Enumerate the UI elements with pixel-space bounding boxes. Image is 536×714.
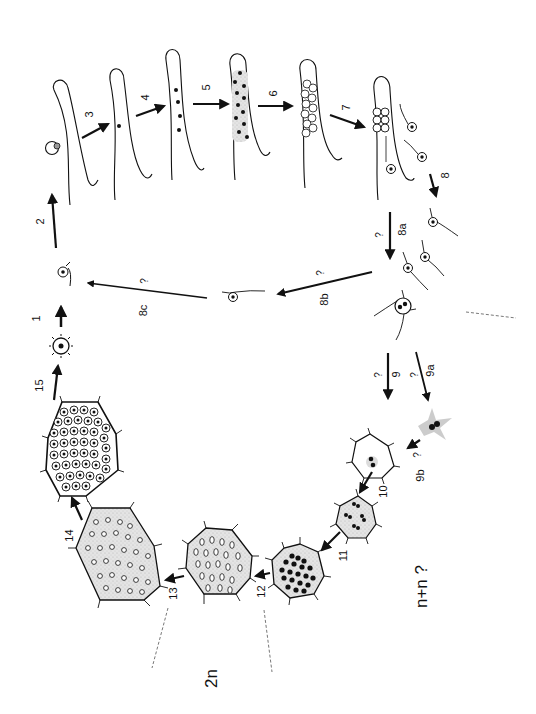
step-label-9b: 9b: [415, 469, 426, 481]
uncertain-mark-8c: ?: [140, 278, 150, 284]
step-label-3: 3: [84, 111, 95, 117]
step-label-12: 12: [256, 585, 267, 597]
amoeboid-zygote: [418, 408, 452, 440]
arrow-11: [322, 532, 340, 550]
uncertain-mark-9b: ?: [413, 452, 423, 458]
step-label-14: 14: [64, 529, 75, 541]
resting-cell-spores-forming: [178, 521, 259, 604]
zoosporangium-releasing: [373, 77, 427, 201]
step-label-8: 8: [440, 172, 451, 178]
infection-hypha: [46, 80, 99, 205]
step-label-9: 9: [391, 371, 402, 377]
sporangium-cleaving: [300, 60, 342, 189]
step-label-1: 1: [31, 315, 42, 321]
divider-dashed-mid: [264, 610, 272, 672]
zoospores-free: [403, 208, 458, 290]
resting-cell-spores: [68, 501, 168, 608]
step-label-8a: 8a: [397, 223, 408, 235]
step-label-11: 11: [338, 550, 349, 561]
zoospore-cell: [58, 262, 71, 286]
uncertain-mark-9a: ?: [410, 372, 420, 378]
divider-dashed-left: [152, 608, 168, 668]
arrow-2: [52, 195, 56, 248]
arrow-7: [330, 115, 364, 127]
step-label-8c: 8c: [138, 305, 149, 317]
step-label-8b: 8b: [319, 293, 330, 305]
step-label-15: 15: [34, 379, 45, 391]
step-label-10: 10: [378, 485, 389, 497]
step-label-5: 5: [201, 84, 212, 90]
multinucleate-thallus: [166, 50, 204, 181]
arrow-13: [166, 576, 184, 580]
arrow-9b: [408, 440, 420, 448]
resting-cell-multinucleate: [265, 537, 331, 605]
multinucleate-thallus-dense: [230, 54, 270, 180]
life-cycle-diagram: [0, 0, 536, 714]
arrow-12: [256, 573, 270, 576]
step-label-13: 13: [168, 587, 179, 599]
mature-resting-sporangium: [40, 396, 124, 502]
uninucleate-thallus: [110, 69, 152, 200]
step-label-6: 6: [268, 90, 279, 96]
arrow-3: [82, 124, 108, 138]
arrow-15: [54, 366, 58, 400]
step-label-9a: 9a: [425, 364, 436, 376]
arrow-8c: [88, 283, 207, 298]
divider-dashed-right: [466, 312, 516, 318]
arrow-14: [72, 498, 82, 520]
step-label-7: 7: [341, 104, 352, 110]
ploidy-label-2n: 2n: [203, 669, 220, 688]
spore-cell: [49, 334, 73, 358]
uncertain-mark-8a: ?: [375, 232, 385, 238]
arrow-8: [430, 174, 436, 196]
step-label-4: 4: [140, 94, 151, 100]
arrow-4: [136, 106, 164, 116]
uncertain-mark-8b: ?: [316, 270, 326, 276]
zoospore-8b: [222, 291, 265, 302]
step-label-2: 2: [35, 218, 46, 224]
planozygote-cell: [374, 290, 416, 340]
ploidy-label-n-plus-n: n+n ?: [413, 565, 430, 608]
young-resting-cell: [346, 428, 400, 484]
uncertain-mark-9: ?: [374, 372, 384, 378]
